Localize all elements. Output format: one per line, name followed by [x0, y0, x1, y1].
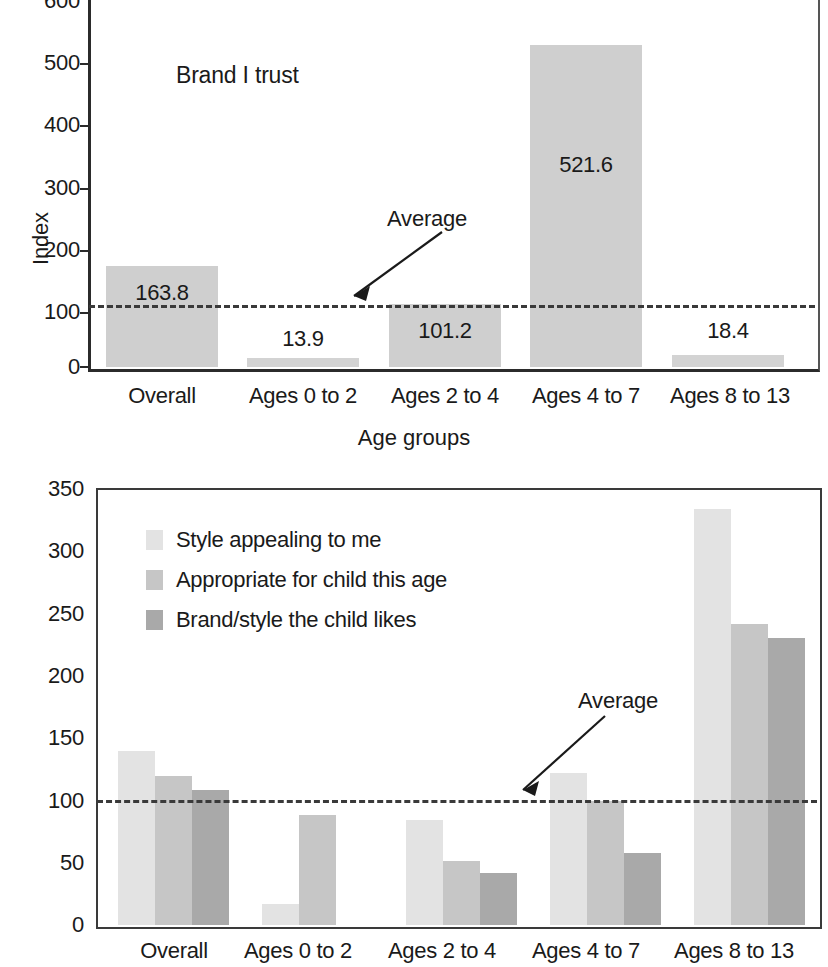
bar-value-ages-2-to-4-top: 101.2 — [389, 318, 501, 344]
y-tick-600-top: 600 — [24, 0, 80, 14]
average-annotation-arrow-bottom — [505, 712, 615, 804]
legend-label-appropriate-for-child: Appropriate for child this age — [176, 567, 447, 593]
bar-value-ages-0-to-2-top: 13.9 — [247, 326, 359, 352]
y-tick-mark-400-top — [80, 125, 89, 127]
y-tick-mark-0-top — [80, 366, 89, 368]
y-tick-150-bottom: 150 — [20, 725, 84, 751]
bar-ages-0-to-2-appropriate — [299, 815, 336, 925]
legend-swatch-style-appealing — [146, 530, 163, 550]
y-tick-200-bottom: 200 — [20, 663, 84, 689]
bar-ages-4-to-7-child-likes — [624, 853, 661, 925]
x-tick-overall-top: Overall — [106, 383, 218, 409]
bar-ages-4-to-7-top — [530, 45, 642, 367]
legend-item-brand-style-child-likes[interactable]: Brand/style the child likes — [146, 600, 447, 640]
legend-bottom: Style appealing to me Appropriate for ch… — [146, 520, 447, 640]
legend-item-style-appealing[interactable]: Style appealing to me — [146, 520, 447, 560]
legend-swatch-appropriate-for-child — [146, 570, 163, 590]
y-tick-300-bottom: 300 — [20, 538, 84, 564]
y-tick-100-top: 100 — [24, 299, 80, 325]
y-tick-300-top: 300 — [24, 175, 80, 201]
x-tick-ages-4-to-7-bottom: Ages 4 to 7 — [522, 938, 650, 964]
bar-ages-2-to-4-child-likes — [480, 873, 517, 925]
y-tick-350-bottom: 350 — [20, 476, 84, 502]
bar-ages-0-to-2-top — [247, 358, 359, 367]
x-tick-ages-0-to-2-top: Ages 0 to 2 — [239, 383, 367, 409]
bar-value-ages-8-to-13-top: 18.4 — [672, 318, 784, 344]
x-tick-ages-4-to-7-top: Ages 4 to 7 — [522, 383, 650, 409]
y-tick-mark-200-top — [80, 250, 89, 252]
bar-overall-appropriate — [155, 776, 192, 925]
y-tick-250-bottom: 250 — [20, 601, 84, 627]
x-tick-ages-0-to-2-bottom: Ages 0 to 2 — [234, 938, 362, 964]
x-tick-ages-2-to-4-bottom: Ages 2 to 4 — [378, 938, 506, 964]
y-tick-mark-100-top — [80, 312, 89, 314]
average-annotation-arrow-top — [330, 228, 450, 308]
legend-label-style-appealing: Style appealing to me — [176, 527, 381, 553]
bar-ages-8-to-13-appropriate — [731, 624, 768, 925]
chart-style-and-appropriateness: Index 350 300 250 200 150 100 50 0 Style… — [0, 470, 828, 967]
legend-swatch-brand-style-child-likes — [146, 610, 163, 630]
bar-ages-8-to-13-child-likes — [768, 638, 805, 925]
bar-value-overall-top: 163.8 — [106, 280, 218, 306]
average-line-bottom — [97, 800, 817, 803]
y-tick-500-top: 500 — [24, 50, 80, 76]
y-tick-mark-300-top — [80, 188, 89, 190]
bar-overall-child-likes — [192, 790, 229, 925]
bar-ages-2-to-4-appropriate — [443, 861, 480, 925]
y-tick-0-top: 0 — [24, 354, 80, 380]
x-tick-ages-8-to-13-bottom: Ages 8 to 13 — [664, 938, 804, 964]
bar-ages-2-to-4-style-appealing — [406, 820, 443, 925]
legend-label-brand-style-child-likes: Brand/style the child likes — [176, 607, 416, 633]
bar-value-ages-4-to-7-top: 521.6 — [530, 152, 642, 178]
x-axis-label-top: Age groups — [0, 425, 828, 451]
bar-ages-8-to-13-style-appealing — [694, 509, 731, 925]
bar-overall-style-appealing — [118, 751, 155, 925]
x-tick-ages-2-to-4-top: Ages 2 to 4 — [381, 383, 509, 409]
x-tick-ages-8-to-13-top: Ages 8 to 13 — [660, 383, 800, 409]
y-tick-400-top: 400 — [24, 112, 80, 138]
bar-ages-4-to-7-appropriate — [587, 801, 624, 925]
bar-ages-8-to-13-top — [672, 355, 784, 367]
y-tick-mark-500-top — [80, 63, 89, 65]
y-tick-200-top: 200 — [24, 237, 80, 263]
bar-ages-0-to-2-style-appealing — [262, 904, 299, 925]
chart-title-top: Brand I trust — [176, 62, 299, 89]
y-tick-50-bottom: 50 — [20, 850, 84, 876]
average-line-top — [89, 305, 815, 308]
x-tick-overall-bottom: Overall — [110, 938, 238, 964]
legend-item-appropriate-for-child[interactable]: Appropriate for child this age — [146, 560, 447, 600]
chart-brand-i-trust: Index 600 500 400 300 200 100 0 Brand I … — [0, 0, 828, 470]
y-tick-100-bottom: 100 — [20, 788, 84, 814]
average-annotation-label-bottom: Average — [578, 688, 658, 714]
y-tick-0-bottom: 0 — [20, 912, 84, 938]
